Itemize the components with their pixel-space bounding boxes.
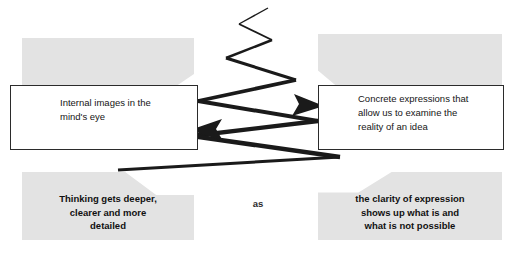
bottom-right-panel-label: the clarity of expression shows up what …: [318, 192, 502, 233]
top-right-panel: [318, 34, 502, 86]
zigzag-segment-7: [192, 121, 318, 136]
zigzag-segment-2: [239, 24, 272, 40]
right-concept-box-label: Concrete expressions that allow us to ex…: [358, 92, 498, 134]
connector-label: as: [228, 198, 288, 209]
bottom-left-panel-label: Thinking gets deeper, clearer and more d…: [22, 192, 194, 233]
zigzag-segment-3: [226, 40, 272, 58]
top-left-panel: [22, 38, 194, 88]
zigzag-segment-1: [239, 8, 268, 24]
zigzag-segment-6: [198, 101, 318, 121]
zigzag-segment-4: [226, 58, 296, 80]
zigzag-segment-5: [198, 80, 296, 101]
diagram-canvas: Internal images in the mind's eye Concre…: [0, 0, 524, 260]
zigzag-segment-9: [118, 157, 340, 170]
left-concept-box-label: Internal images in the mind's eye: [60, 96, 190, 124]
